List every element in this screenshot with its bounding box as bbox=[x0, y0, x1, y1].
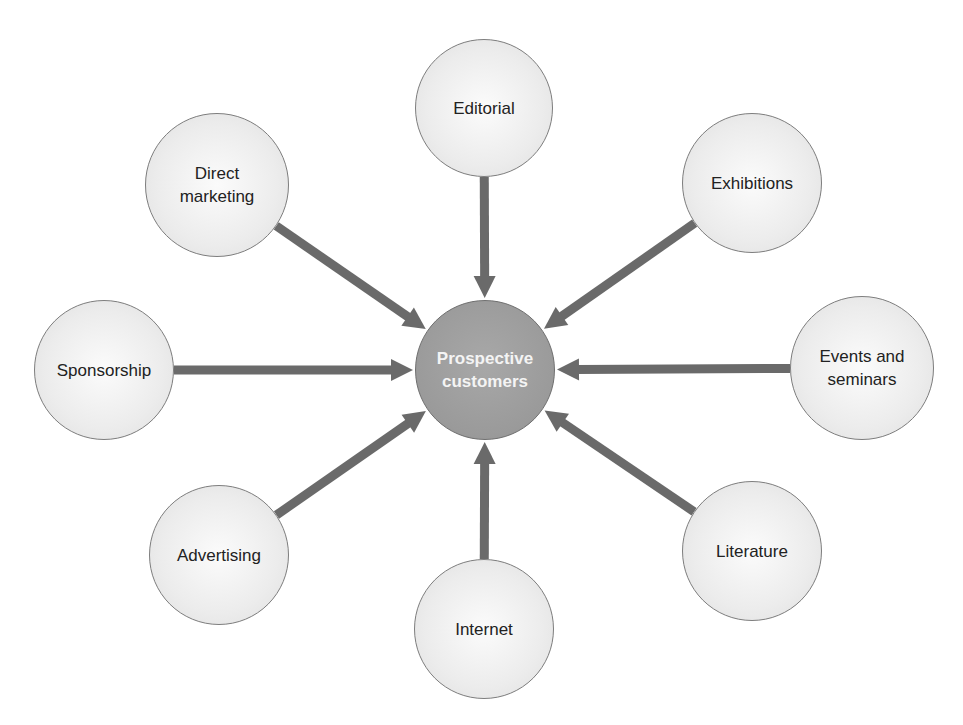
node-literature: Literature bbox=[682, 481, 822, 621]
node-advertising: Advertising bbox=[149, 485, 289, 625]
arrow-shaft bbox=[276, 226, 409, 318]
arrowhead-icon bbox=[557, 359, 579, 381]
center-node-label: Prospective customers bbox=[437, 347, 533, 393]
center-node-prospective-customers: Prospective customers bbox=[415, 300, 555, 440]
arrow-shaft bbox=[276, 423, 409, 516]
node-direct-marketing: Direct marketing bbox=[145, 113, 289, 257]
node-label: Internet bbox=[455, 618, 513, 641]
node-label: Direct marketing bbox=[180, 162, 255, 208]
node-label: Literature bbox=[716, 540, 788, 563]
arrowhead-icon bbox=[474, 276, 496, 298]
node-label: Editorial bbox=[453, 97, 514, 120]
node-internet: Internet bbox=[414, 559, 554, 699]
arrow-shaft bbox=[561, 422, 694, 512]
node-label: Sponsorship bbox=[57, 359, 152, 382]
node-editorial: Editorial bbox=[415, 39, 553, 177]
arrowhead-icon bbox=[474, 442, 496, 464]
arrowhead-icon bbox=[391, 359, 413, 381]
diagram-canvas: Prospective customers Editorial Exhibiti… bbox=[0, 0, 963, 725]
arrow-shaft bbox=[577, 368, 790, 369]
node-label: Advertising bbox=[177, 544, 261, 567]
node-events-and-seminars: Events and seminars bbox=[790, 296, 934, 440]
arrow-shaft bbox=[560, 223, 694, 317]
node-label: Exhibitions bbox=[711, 172, 793, 195]
node-label: Events and seminars bbox=[819, 345, 904, 391]
node-sponsorship: Sponsorship bbox=[34, 300, 174, 440]
node-exhibitions: Exhibitions bbox=[682, 113, 822, 253]
